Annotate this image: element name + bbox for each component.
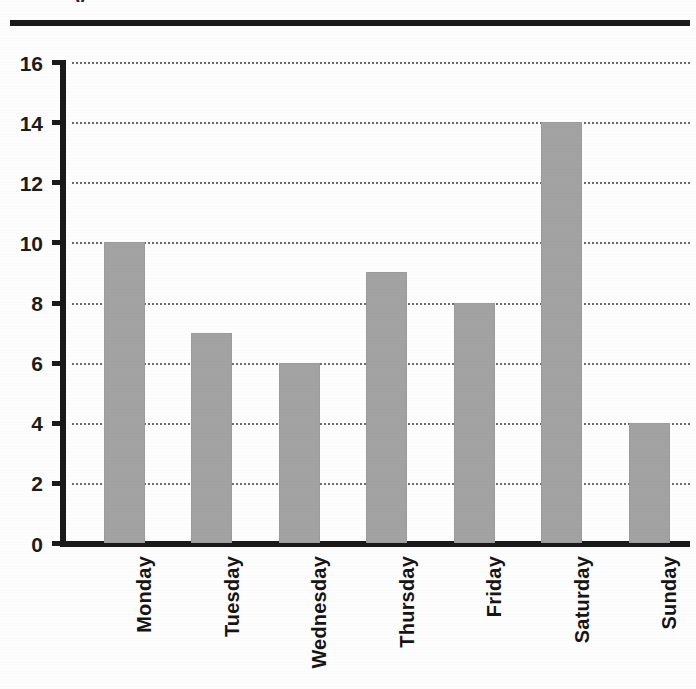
y-tick-mark: 16 — [52, 60, 66, 65]
y-tick-mark: 2 — [52, 481, 66, 486]
bar-saturday[interactable] — [541, 122, 582, 543]
header-divider-rule — [10, 20, 690, 26]
x-label-friday: Friday — [483, 556, 506, 617]
y-tick-label: 16 — [20, 52, 43, 73]
bar-chart: y 0246810121416 MondayTuesdayWednesdayTh… — [0, 0, 696, 689]
bar-tuesday[interactable] — [191, 333, 232, 543]
y-tick-label: 4 — [31, 413, 43, 434]
bar-thursday[interactable] — [366, 272, 407, 543]
y-tick-mark: 6 — [52, 361, 66, 366]
x-label-tuesday: Tuesday — [221, 556, 244, 637]
x-label-saturday: Saturday — [571, 556, 594, 643]
chart-title-remnant: y — [74, 0, 87, 2]
y-tick-label: 10 — [20, 232, 43, 253]
x-label-wednesday: Wednesday — [308, 556, 331, 669]
y-tick-mark: 4 — [52, 421, 66, 426]
y-tick-label: 0 — [31, 533, 43, 554]
bar-wednesday[interactable] — [279, 363, 320, 543]
y-tick-label: 12 — [20, 172, 43, 193]
bar-friday[interactable] — [454, 303, 495, 544]
y-tick-mark: 0 — [52, 541, 66, 546]
x-label-monday: Monday — [133, 556, 156, 633]
y-tick-label: 6 — [31, 353, 43, 374]
bar-monday[interactable] — [104, 242, 145, 543]
x-label-sunday: Sunday — [658, 556, 681, 629]
gridline — [72, 242, 690, 244]
y-tick-label: 14 — [20, 112, 43, 133]
plot-area: 0246810121416 — [66, 62, 690, 543]
bar-sunday[interactable] — [629, 423, 670, 543]
y-tick-mark: 14 — [52, 120, 66, 125]
y-tick-label: 8 — [31, 293, 43, 314]
gridline — [72, 182, 690, 184]
y-tick-mark: 10 — [52, 240, 66, 245]
y-tick-label: 2 — [31, 473, 43, 494]
gridline — [72, 62, 690, 64]
x-label-thursday: Thursday — [396, 556, 419, 648]
y-tick-mark: 8 — [52, 301, 66, 306]
gridline — [72, 122, 690, 124]
y-tick-mark: 12 — [52, 180, 66, 185]
